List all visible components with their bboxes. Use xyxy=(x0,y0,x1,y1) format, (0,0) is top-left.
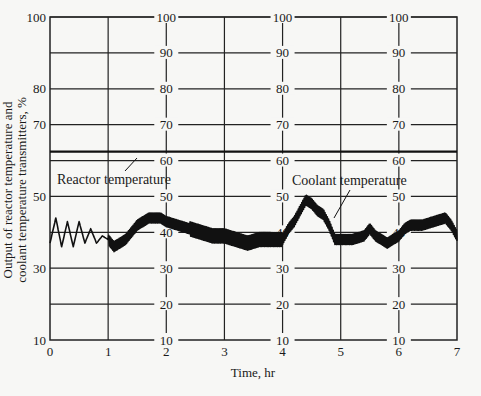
inner-y-tick-label: 90 xyxy=(392,45,405,60)
inner-y-tick-label: 80 xyxy=(276,81,289,96)
y-axis-tick-labels: 1030507080100 xyxy=(27,10,47,348)
inner-y-tick-label: 30 xyxy=(392,261,405,276)
inner-y-tick-label: 60 xyxy=(392,153,405,168)
reactor-temperature-annotation: Reactor temperature xyxy=(57,172,171,187)
inner-y-tick-label: 100 xyxy=(273,10,293,25)
y-tick-label: 80 xyxy=(33,81,46,96)
y-axis-label-line1: Output of reactor temperature and xyxy=(0,101,15,278)
inner-y-tick-label: 20 xyxy=(392,297,405,312)
annotations: Reactor temperatureCoolant temperature xyxy=(57,158,407,218)
inner-y-tick-label: 100 xyxy=(389,10,409,25)
inner-y-tick-label: 70 xyxy=(160,117,173,132)
reactor-annotation-arrow xyxy=(125,158,137,171)
inner-y-tick-label: 90 xyxy=(160,45,173,60)
coolant-temperature-annotation: Coolant temperature xyxy=(292,173,407,188)
x-tick-label: 5 xyxy=(337,344,344,359)
inner-y-tick-label: 60 xyxy=(276,153,289,168)
inner-y-tick-label: 100 xyxy=(157,10,177,25)
y-tick-label: 100 xyxy=(27,10,47,25)
inner-y-tick-label: 20 xyxy=(160,297,173,312)
inner-y-tick-label: 80 xyxy=(392,81,405,96)
coolant-annotation-arrow xyxy=(334,190,350,218)
y-tick-label: 30 xyxy=(33,261,46,276)
x-tick-label: 7 xyxy=(454,344,461,359)
inner-y-tick-label: 50 xyxy=(160,189,173,204)
inner-y-tick-label: 50 xyxy=(276,189,289,204)
x-tick-label: 6 xyxy=(396,344,403,359)
inner-y-tick-label: 70 xyxy=(276,117,289,132)
x-tick-label: 0 xyxy=(47,344,54,359)
x-axis-tick-labels: 01234567 xyxy=(47,344,461,359)
y-axis-label-line2: coolant temperature transmitters, % xyxy=(14,97,29,283)
x-tick-label: 2 xyxy=(163,344,170,359)
inner-y-tick-label: 90 xyxy=(276,45,289,60)
inner-y-tick-label: 30 xyxy=(160,261,173,276)
inner-y-tick-label: 70 xyxy=(392,117,405,132)
inner-y-tick-label: 20 xyxy=(276,297,289,312)
inner-y-tick-label: 60 xyxy=(160,153,173,168)
y-tick-label: 50 xyxy=(33,189,46,204)
x-tick-label: 4 xyxy=(279,344,286,359)
inner-y-tick-label: 50 xyxy=(392,189,405,204)
x-axis-label: Time, hr xyxy=(231,365,276,380)
inner-y-tick-label: 30 xyxy=(276,261,289,276)
inner-y-tick-label: 80 xyxy=(160,81,173,96)
y-tick-label: 10 xyxy=(33,333,46,348)
x-tick-label: 1 xyxy=(105,344,112,359)
chart: 1020304050607080901001020304050607080901… xyxy=(0,0,481,396)
y-tick-label: 70 xyxy=(33,117,46,132)
x-tick-label: 3 xyxy=(221,344,228,359)
